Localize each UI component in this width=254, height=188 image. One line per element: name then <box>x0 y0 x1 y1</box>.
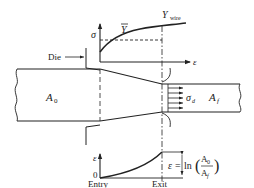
wire-break-left <box>15 69 17 121</box>
svg-text:f: f <box>217 97 220 105</box>
stress-strain-chart: σ ε Y Y wire <box>91 9 197 67</box>
die-upper-exit <box>162 68 170 82</box>
svg-text:0: 0 <box>54 97 58 105</box>
svg-text:(: ( <box>195 157 200 175</box>
exit-label: Exit <box>152 179 167 188</box>
svg-text:A: A <box>45 91 53 103</box>
svg-text:0: 0 <box>207 159 210 165</box>
strain-curve <box>100 152 162 178</box>
die-upper <box>86 48 100 70</box>
entry-label: Entry <box>88 179 108 188</box>
svg-text:ε: ε <box>168 160 172 171</box>
drawing-stress-arrows <box>168 84 183 112</box>
die-lower <box>86 125 100 145</box>
strain-chart: ε 0 Entry Exit ε = ln ( A 0 A f ) <box>88 152 219 188</box>
wire-drawing-diagram: σ ε Y Y wire Die <box>0 0 254 188</box>
svg-text:wire: wire <box>170 15 181 21</box>
strain-y-axis-label: ε <box>93 153 97 163</box>
initial-area-label: A 0 <box>45 91 58 105</box>
final-area-label: A f <box>208 91 220 105</box>
wire-flow-stress-label: Y wire <box>162 9 181 21</box>
wire-break-right <box>239 84 241 112</box>
svg-text:ln: ln <box>184 160 192 171</box>
svg-text:): ) <box>214 157 219 175</box>
svg-text:A: A <box>208 91 216 103</box>
drawing-stress-label: σ d <box>186 92 196 104</box>
flow-stress-curve <box>100 23 186 52</box>
svg-text:Y: Y <box>162 9 169 20</box>
svg-text:d: d <box>192 98 196 104</box>
die-lower-exit <box>162 113 170 127</box>
sigma-axis-label: σ <box>91 29 97 40</box>
svg-text:Die: Die <box>48 52 61 62</box>
svg-text:=: = <box>175 160 181 171</box>
die-label: Die <box>48 52 84 62</box>
strain-equation: ε = ln ( A 0 A f ) <box>168 154 219 179</box>
strain-axis-label: ε <box>193 57 197 67</box>
svg-text:f: f <box>207 173 210 179</box>
